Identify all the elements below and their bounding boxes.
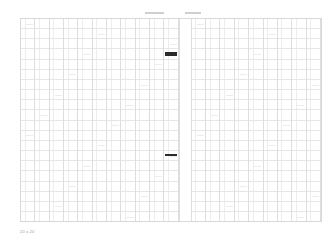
grid-cell-value[interactable]	[155, 19, 164, 28]
grid-cell-row[interactable]	[220, 19, 233, 29]
grid-cell-row[interactable]	[107, 70, 120, 80]
grid-cell-value[interactable]	[297, 141, 306, 150]
grid-cell-row[interactable]	[292, 131, 305, 141]
grid-cell-value[interactable]	[54, 80, 63, 89]
grid-cell-row[interactable]	[220, 110, 233, 120]
grid-cell-row[interactable]	[35, 151, 48, 161]
grid-cell-row[interactable]	[136, 161, 149, 171]
grid-cell-value[interactable]	[54, 100, 63, 109]
grid-cell-row[interactable]	[292, 80, 305, 90]
grid-cell-value[interactable]	[155, 49, 164, 58]
grid-cell-row[interactable]	[264, 151, 277, 161]
grid-cell-value[interactable]	[169, 141, 178, 150]
grid-cell-value[interactable]	[169, 19, 178, 28]
grid-cell-row[interactable]	[121, 100, 134, 110]
grid-cell-value[interactable]	[239, 110, 248, 119]
grid-cell-row[interactable]	[136, 182, 149, 192]
grid-cell-value[interactable]	[211, 29, 220, 38]
grid-cell-value[interactable]	[297, 202, 306, 211]
grid-cell-value[interactable]	[112, 49, 121, 58]
grid-cell-row[interactable]	[164, 39, 177, 49]
grid-cell-row[interactable]	[278, 121, 291, 131]
grid-cell-row[interactable]	[121, 29, 134, 39]
grid-cell-row[interactable]	[150, 39, 163, 49]
grid-cell-row[interactable]	[21, 192, 34, 202]
grid-cell-value[interactable]	[54, 19, 63, 28]
grid-cell-value[interactable]	[26, 202, 35, 211]
grid-cell-value[interactable]	[26, 80, 35, 89]
grid-cell-value[interactable]	[69, 60, 78, 69]
grid-cell-row[interactable]	[93, 121, 106, 131]
grid-cell-row[interactable]	[78, 131, 91, 141]
grid-cell-value[interactable]	[54, 212, 63, 221]
grid-cell-row[interactable]	[192, 100, 205, 110]
grid-cell-row[interactable]	[93, 182, 106, 192]
grid-cell-row[interactable]	[136, 121, 149, 131]
grid-cell-value[interactable]	[211, 202, 220, 211]
grid-cell-row[interactable]	[307, 141, 320, 151]
grid-cell-row[interactable]	[164, 29, 177, 39]
grid-cell-value[interactable]	[97, 100, 106, 109]
grid-cell-value[interactable]	[40, 29, 49, 38]
grid-cell-value[interactable]	[126, 110, 135, 119]
grid-cell-row[interactable]	[136, 70, 149, 80]
grid-cell-value[interactable]	[225, 141, 234, 150]
grid-cell-row[interactable]	[150, 100, 163, 110]
grid-cell-row[interactable]	[206, 100, 219, 110]
grid-cell-value[interactable]	[97, 80, 106, 89]
selection-marker-secondary[interactable]	[165, 154, 177, 156]
grid-cell-row[interactable]	[249, 161, 262, 171]
grid-cell-value[interactable]	[97, 171, 106, 180]
grid-cell-value[interactable]	[155, 110, 164, 119]
grid-cell-row[interactable]	[93, 110, 106, 120]
grid-cell-row[interactable]	[136, 39, 149, 49]
grid-cell-row[interactable]	[206, 161, 219, 171]
grid-cell-value[interactable]	[211, 212, 220, 221]
grid-cell-row[interactable]	[278, 29, 291, 39]
grid-cell-row[interactable]	[249, 39, 262, 49]
grid-cell-value[interactable]	[69, 151, 78, 160]
grid-cell-value[interactable]	[140, 29, 149, 38]
grid-cell-row[interactable]	[220, 121, 233, 131]
grid-cell-value[interactable]	[40, 49, 49, 58]
grid-cell-value[interactable]	[155, 151, 164, 160]
grid-cell-value[interactable]	[254, 60, 263, 69]
grid-cell-row[interactable]	[307, 212, 320, 221]
grid-cell-value[interactable]	[155, 70, 164, 79]
grid-cell-row[interactable]	[235, 171, 248, 181]
grid-cell-row[interactable]	[64, 19, 77, 29]
grid-cell-row[interactable]	[93, 141, 106, 151]
grid-column-group[interactable]	[292, 19, 306, 221]
grid-cell-row[interactable]	[78, 110, 91, 120]
grid-cell-row[interactable]	[78, 80, 91, 90]
grid-cell-row[interactable]	[206, 202, 219, 212]
grid-cell-value[interactable]	[26, 39, 35, 48]
grid-cell-value[interactable]	[282, 90, 291, 99]
grid-cell-row[interactable]	[206, 192, 219, 202]
grid-cell-value[interactable]	[112, 110, 121, 119]
grid-cell-value[interactable]	[54, 151, 63, 160]
grid-cell-value[interactable]	[54, 29, 63, 38]
grid-cell-value[interactable]	[211, 151, 220, 160]
grid-cell-value[interactable]	[311, 29, 320, 38]
grid-cell-value[interactable]	[311, 90, 320, 99]
grid-cell-row[interactable]	[220, 49, 233, 59]
grid-cell-value[interactable]	[54, 131, 63, 140]
grid-cell-value[interactable]	[239, 49, 248, 58]
grid-cell-row[interactable]	[136, 212, 149, 221]
grid-cell-row[interactable]	[292, 29, 305, 39]
grid-cell-value[interactable]	[26, 161, 35, 170]
grid-cell-value[interactable]	[97, 202, 106, 211]
grid-cell-value[interactable]	[40, 19, 49, 28]
grid-cell-value[interactable]	[196, 110, 205, 119]
grid-cell-value[interactable]	[311, 161, 320, 170]
grid-cell-row[interactable]	[64, 202, 77, 212]
grid-gutter-column[interactable]	[179, 19, 192, 221]
grid-cell-value[interactable]	[311, 121, 320, 130]
grid-cell-value[interactable]	[83, 121, 92, 130]
grid-cell-row[interactable]	[249, 19, 262, 29]
grid-cell-value[interactable]	[196, 39, 205, 48]
grid-cell-value[interactable]	[69, 19, 78, 28]
grid-cell-value[interactable]	[211, 141, 220, 150]
grid-cell-value[interactable]	[268, 110, 277, 119]
